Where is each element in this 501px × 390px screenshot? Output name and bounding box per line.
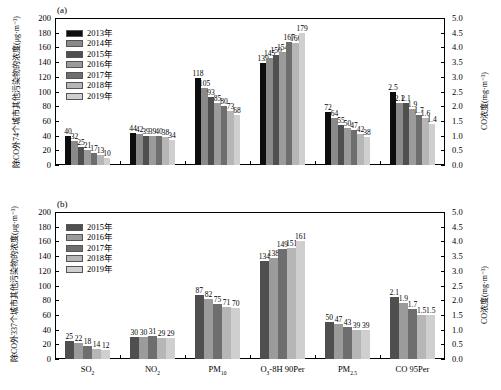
- bar-value-label: 118: [190, 69, 207, 78]
- x-category-label-3: O3-8H 90Per: [250, 364, 315, 376]
- y2-tick-mark: [441, 241, 445, 242]
- y2-tick-mark: [441, 77, 445, 78]
- y2-tick-mark: [441, 344, 445, 345]
- legend-item[interactable]: 2019年: [66, 91, 113, 102]
- y2-tick-label: 0.5: [452, 146, 478, 154]
- bar: [169, 140, 176, 165]
- bar: [234, 115, 241, 165]
- bar: [148, 336, 157, 359]
- x-category-label-0: SO2: [55, 364, 120, 376]
- y-tick-label: 160: [25, 237, 51, 245]
- legend-item[interactable]: 2013年: [66, 28, 113, 39]
- x-category-label-1: NO2: [120, 364, 185, 376]
- x-tick-mark: [250, 161, 251, 165]
- bar: [130, 337, 139, 359]
- y2-tick-label: 1.0: [452, 132, 478, 140]
- bar: [399, 303, 408, 359]
- x-category-label-2: PM10: [185, 364, 250, 376]
- y2-tick-mark: [441, 18, 445, 19]
- x-tick-mark: [250, 355, 251, 359]
- y-tick-label: 0: [25, 355, 51, 363]
- y2-tick-label: 4.0: [452, 237, 478, 245]
- x-tick-mark: [120, 355, 121, 359]
- y-tick-label: 120: [25, 73, 51, 81]
- bar-value-label: 179: [294, 24, 311, 33]
- legend-item[interactable]: 2019年: [66, 264, 113, 275]
- legend-label: 2016年: [87, 233, 113, 242]
- y-tick-label: 60: [25, 311, 51, 319]
- legend-item[interactable]: 2018年: [66, 81, 113, 92]
- y-tick-mark: [55, 359, 59, 360]
- y-tick-mark: [55, 286, 59, 287]
- y-tick-label: 200: [25, 208, 51, 216]
- x-tick-mark: [380, 355, 381, 359]
- panel-b: (b) 除CO外337个城市其他污染物的浓度(μg·m⁻³) CO浓度(mg·m…: [0, 190, 501, 390]
- y2-tick-label: 3.5: [452, 58, 478, 66]
- y2-tick-label: 1.0: [452, 326, 478, 334]
- y2-tick-mark: [441, 121, 445, 122]
- panel-a-y2-axis-title: CO浓度(mg·m⁻³): [478, 72, 489, 130]
- legend-swatch-icon: [66, 234, 83, 241]
- bar-value-label: 161: [291, 232, 310, 241]
- bar: [364, 137, 371, 165]
- y-tick-mark: [55, 330, 59, 331]
- y-tick-mark: [55, 212, 59, 213]
- panel-b-legend: 2015年2016年2017年2018年2019年: [66, 222, 113, 275]
- y-tick-mark: [55, 315, 59, 316]
- legend-swatch-icon: [66, 224, 83, 231]
- legend-label: 2015年: [87, 223, 113, 232]
- x-tick-mark: [315, 355, 316, 359]
- legend-item[interactable]: 2017年: [66, 243, 113, 254]
- y-tick-mark: [55, 271, 59, 272]
- legend-label: 2018年: [87, 81, 113, 90]
- bar-value-label: 105: [196, 79, 213, 88]
- legend-swatch-icon: [66, 82, 83, 89]
- bar-value-label: 70: [226, 299, 245, 308]
- legend-item[interactable]: 2016年: [66, 60, 113, 71]
- y-tick-label: 200: [25, 14, 51, 22]
- y-tick-mark: [55, 106, 59, 107]
- bar-value-label: 38: [359, 128, 376, 137]
- y-tick-label: 100: [25, 88, 51, 96]
- legend-item[interactable]: 2017年: [66, 70, 113, 81]
- y-tick-mark: [55, 300, 59, 301]
- legend-item[interactable]: 2015年: [66, 49, 113, 60]
- y2-tick-label: 5.0: [452, 14, 478, 22]
- panel-a-tag: (a): [57, 5, 67, 15]
- y2-tick-mark: [441, 359, 445, 360]
- legend-label: 2017年: [87, 71, 113, 80]
- y-tick-mark: [55, 121, 59, 122]
- y2-tick-label: 3.0: [452, 267, 478, 275]
- y2-tick-label: 2.5: [452, 88, 478, 96]
- legend-item[interactable]: 2015年: [66, 222, 113, 233]
- bar: [269, 258, 278, 359]
- y-tick-mark: [55, 344, 59, 345]
- legend-swatch-icon: [66, 61, 83, 68]
- y-tick-mark: [55, 241, 59, 242]
- bar: [260, 261, 269, 359]
- bar: [299, 33, 306, 165]
- legend-item[interactable]: 2016年: [66, 233, 113, 244]
- bar: [231, 308, 240, 359]
- x-tick-mark: [120, 161, 121, 165]
- legend-swatch-icon: [66, 51, 83, 58]
- y2-tick-label: 0.5: [452, 340, 478, 348]
- y2-tick-label: 5.0: [452, 208, 478, 216]
- bar: [213, 304, 222, 359]
- y2-tick-mark: [441, 62, 445, 63]
- bar: [417, 315, 426, 359]
- y-tick-mark: [55, 92, 59, 93]
- bar: [204, 299, 213, 359]
- panel-b-y-axis-title: 除CO外337个城市其他污染物的浓度(μg·m⁻³): [8, 206, 19, 362]
- bar: [195, 295, 204, 359]
- bar: [361, 330, 370, 359]
- legend-item[interactable]: 2014年: [66, 39, 113, 50]
- y-tick-mark: [55, 150, 59, 151]
- figure-root: (a) 除CO外74个城市其他污染物的浓度(μg·m⁻³) CO浓度(mg·m⁻…: [0, 0, 501, 390]
- y-tick-label: 140: [25, 58, 51, 66]
- legend-item[interactable]: 2018年: [66, 254, 113, 265]
- x-tick-mark: [380, 161, 381, 165]
- bar: [222, 307, 231, 359]
- panel-a: (a) 除CO外74个城市其他污染物的浓度(μg·m⁻³) CO浓度(mg·m⁻…: [0, 0, 501, 196]
- y-tick-label: 80: [25, 102, 51, 110]
